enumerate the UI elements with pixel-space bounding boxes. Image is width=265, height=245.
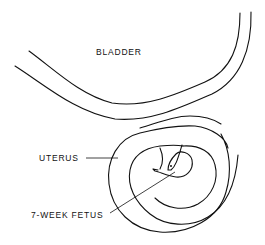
bladder-wall-outer <box>15 12 251 119</box>
fetus-head-dot <box>170 165 172 167</box>
label-bladder: BLADDER <box>96 47 142 57</box>
uterus-outer-wall <box>109 126 230 232</box>
diagram-canvas: BLADDER UTERUS 7-WEEK FETUS <box>0 0 265 245</box>
fetus <box>153 145 192 177</box>
uterus <box>109 116 238 232</box>
label-fetus: 7-WEEK FETUS <box>31 210 103 220</box>
uterus-inner-wall <box>129 145 238 224</box>
bladder-wall-inner <box>29 13 240 104</box>
label-uterus: UTERUS <box>39 153 79 163</box>
fetus-body <box>153 145 192 177</box>
bladder-wall <box>15 12 251 119</box>
gestational-sac <box>155 146 216 208</box>
fetus-limb <box>160 148 163 169</box>
